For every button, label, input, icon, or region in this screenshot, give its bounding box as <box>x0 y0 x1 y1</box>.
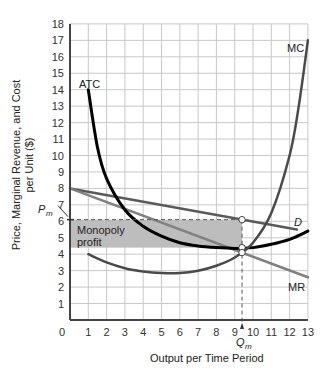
x-tick-label: 5 <box>158 326 164 338</box>
x-tick-label: 2 <box>104 326 110 338</box>
y-tick-label: 1 <box>58 298 64 310</box>
x-tick-label: 1 <box>85 326 91 338</box>
pm-label: P m <box>38 203 53 218</box>
equilibrium-point <box>239 216 245 222</box>
x-tick-label: 0 <box>59 326 65 338</box>
y-tick-label: 2 <box>58 281 64 293</box>
y-tick-label: 14 <box>52 84 64 96</box>
y-tick-label: 11 <box>53 133 64 145</box>
curves <box>70 40 308 328</box>
x-tick-label: 13 <box>302 326 314 338</box>
x-tick-label: 8 <box>213 326 219 338</box>
atc-label: ATC <box>79 78 100 90</box>
y-tick-label: 15 <box>52 67 64 79</box>
qm-symbol: Q <box>236 336 245 348</box>
y-tick-label: 5 <box>58 232 64 244</box>
y-tick-label: 8 <box>58 182 64 194</box>
demand-label: D <box>294 216 302 228</box>
pm-symbol: P <box>38 203 46 215</box>
y-tick-label: 12 <box>52 117 64 129</box>
y-tick-label: 13 <box>52 100 64 112</box>
equilibrium-point <box>239 249 245 255</box>
y-axis-label: Price, Marginal Revenue, and Cost per Un… <box>10 80 35 251</box>
x-tick-label: 11 <box>266 326 277 338</box>
y-axis-label-line1: Price, Marginal Revenue, and Cost <box>10 80 22 251</box>
y-tick-label: 18 <box>52 18 64 30</box>
qm-label: Q m <box>236 336 252 351</box>
y-tick-label: 6 <box>58 215 64 227</box>
y-tick-label: 17 <box>52 34 64 46</box>
y-tick-label: 3 <box>58 265 64 277</box>
tick-labels: 1234567891011121314151617180123456789101… <box>52 18 314 338</box>
qm-arrow-icon <box>240 323 244 329</box>
y-axis-label-line2: per Unit ($) <box>23 137 35 192</box>
monopoly-profit-chart: 1234567891011121314151617180123456789101… <box>0 0 329 381</box>
mc-label: MC <box>287 42 304 54</box>
y-tick-label: 9 <box>58 166 64 178</box>
x-tick-label: 6 <box>177 326 183 338</box>
x-tick-label: 10 <box>247 326 259 338</box>
x-tick-label: 3 <box>122 326 128 338</box>
monopoly-profit-label: Monopoly <box>77 224 125 236</box>
y-tick-label: 10 <box>52 150 64 162</box>
x-axis-label: Output per Time Period <box>150 352 264 364</box>
x-tick-label: 7 <box>195 326 201 338</box>
y-tick-label: 16 <box>52 51 64 63</box>
monopoly-profit-label-2: profit <box>77 236 101 248</box>
pm-subscript: m <box>46 209 53 218</box>
x-tick-label: 12 <box>283 326 295 338</box>
grid <box>70 24 308 320</box>
y-tick-label: 4 <box>58 248 64 260</box>
mr-label: MR <box>288 281 305 293</box>
qm-subscript: m <box>245 342 252 351</box>
x-tick-label: 4 <box>140 326 146 338</box>
